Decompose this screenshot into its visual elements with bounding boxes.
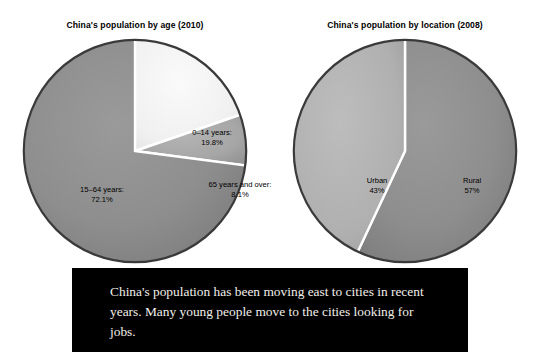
pie-label-rural-name: Rural xyxy=(442,176,502,186)
chart-population-by-location: China's population by location (2008) Ur… xyxy=(270,0,540,266)
pie-label-urban-value: 43% xyxy=(347,186,407,196)
chart-title-age: China's population by age (2010) xyxy=(0,20,270,30)
chart-title-location: China's population by location (2008) xyxy=(270,20,540,30)
pie-label-15-64: 15–64 years: 72.1% xyxy=(60,185,144,206)
chart-population-by-age: China's population by age (2010) xyxy=(0,0,270,266)
caption-box: China's population has been moving east … xyxy=(72,268,468,352)
pie-label-0-14: 0–14 years: 19.8% xyxy=(170,128,254,149)
pie-label-15-64-value: 72.1% xyxy=(60,195,144,205)
pie-label-15-64-name: 15–64 years: xyxy=(60,185,144,195)
pie-label-urban: Urban 43% xyxy=(347,176,407,197)
pie-location: Urban 43% Rural 57% xyxy=(292,38,518,264)
pie-label-0-14-name: 0–14 years: xyxy=(170,128,254,138)
figure-page: China's population by age (2010) xyxy=(0,0,541,364)
pie-label-rural-value: 57% xyxy=(442,186,502,196)
pie-label-urban-name: Urban xyxy=(347,176,407,186)
caption-text: China's population has been moving east … xyxy=(110,282,440,341)
pie-age: 0–14 years: 19.8% 15–64 years: 72.1% 65 … xyxy=(22,38,248,264)
pie-label-0-14-value: 19.8% xyxy=(170,138,254,148)
pie-label-rural: Rural 57% xyxy=(442,176,502,197)
